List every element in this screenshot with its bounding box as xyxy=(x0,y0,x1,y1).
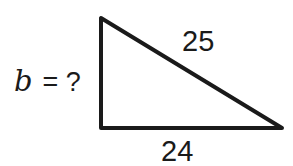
right-triangle-diagram: 25 24 b = ? xyxy=(0,0,293,166)
hypotenuse-label: 25 xyxy=(182,25,214,57)
equals-question: = ? xyxy=(43,67,81,97)
vertical-leg-label: b = ? xyxy=(14,64,81,98)
triangle-figure: 25 24 b = ? xyxy=(0,0,293,166)
base-label: 24 xyxy=(161,135,193,166)
variable-b: b xyxy=(14,64,33,98)
